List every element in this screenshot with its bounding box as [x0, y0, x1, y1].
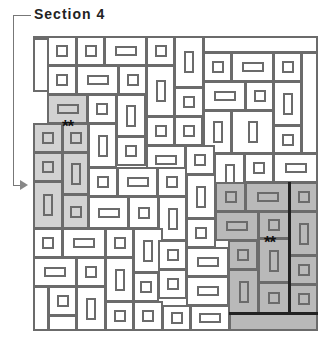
square-slot [155, 125, 167, 137]
grid-cell [146, 116, 175, 146]
grid-cell [203, 81, 246, 111]
tall-slot [239, 281, 249, 303]
square-slot [85, 45, 97, 57]
wide-slot [44, 267, 66, 277]
square-slot [42, 237, 54, 249]
square-slot [125, 145, 137, 157]
grid-cell [88, 167, 118, 197]
grid-cell [186, 247, 229, 277]
grid-cell [174, 36, 204, 88]
grid-cell [289, 211, 318, 256]
grid-cell [231, 52, 274, 82]
grid-cell [174, 87, 204, 117]
tall-slot [43, 194, 53, 216]
square-slot [114, 310, 126, 322]
square-slot [268, 219, 280, 231]
square-slot [171, 312, 183, 324]
grid-cell [76, 65, 119, 95]
grid-cell [33, 286, 49, 331]
grid-cell [273, 52, 302, 82]
grid-cell [87, 94, 117, 124]
grid-cell [174, 116, 203, 146]
thick-divider [229, 312, 318, 315]
grid-cell [229, 313, 318, 331]
square-slot [85, 266, 97, 278]
wide-slot [57, 104, 79, 114]
grid-cell [215, 211, 259, 241]
grid-cell [33, 181, 63, 229]
square-slot [70, 206, 82, 218]
square-slot [195, 227, 207, 239]
square-slot [282, 134, 294, 146]
wide-slot [257, 192, 279, 202]
grid-cell [231, 110, 274, 154]
grid-cell [245, 182, 290, 212]
tall-slot [269, 250, 279, 272]
grid-cell [105, 301, 134, 331]
square-slot [96, 103, 108, 115]
grid-cell [104, 36, 147, 66]
square-slot [254, 90, 266, 102]
square-slot [166, 176, 178, 188]
grid-cell [273, 153, 318, 183]
grid-cell [47, 36, 77, 66]
square-slot [183, 96, 195, 108]
leader-line-top [13, 15, 31, 16]
arrow-right-icon [20, 180, 28, 190]
tall-slot [126, 105, 136, 127]
grid-cell [118, 65, 147, 95]
wide-slot [155, 155, 177, 165]
grid-cell [33, 257, 77, 287]
square-slot [42, 132, 54, 144]
grid-cell [273, 125, 302, 154]
wide-slot [226, 221, 248, 231]
grid-cell [116, 94, 146, 137]
wide-slot [73, 238, 95, 248]
wide-slot [242, 62, 264, 72]
grid-cell [76, 286, 106, 331]
grid-cell [117, 167, 158, 197]
grid-cell [88, 196, 129, 229]
grid-cell [48, 286, 77, 316]
square-slot [127, 74, 139, 86]
grid-cell [289, 284, 318, 314]
thick-divider [288, 182, 291, 314]
square-slot [114, 237, 126, 249]
wide-slot [115, 46, 137, 56]
grid-cell [157, 167, 187, 197]
grid-cell [47, 65, 77, 95]
grid-cell [301, 52, 318, 154]
grid-cell [33, 123, 63, 153]
square-slot [140, 281, 152, 293]
grid-cell [190, 305, 230, 331]
tall-slot [156, 80, 166, 102]
square-slot [253, 162, 265, 174]
square-slot [298, 264, 310, 276]
square-slot [56, 74, 68, 86]
grid-cell [105, 228, 134, 258]
grid-cell [146, 65, 175, 117]
tall-slot [71, 163, 81, 185]
tall-slot [213, 121, 223, 143]
grid-cell [133, 272, 159, 302]
grid-cell [62, 152, 89, 195]
grid-cell [186, 218, 216, 248]
grid-cell [146, 36, 175, 66]
wide-slot [285, 163, 307, 173]
tall-slot [248, 121, 258, 143]
square-slot [97, 176, 109, 188]
square-slot [167, 249, 179, 261]
square-slot [138, 207, 150, 219]
wide-slot [127, 177, 149, 187]
square-slot [298, 191, 310, 203]
grid-cell [116, 136, 146, 166]
section-title: Section 4 [34, 6, 105, 22]
leader-line-vertical [13, 15, 14, 185]
wide-slot [87, 75, 109, 85]
grid-cell [258, 282, 290, 314]
square-slot [194, 154, 206, 166]
square-slot [183, 125, 195, 137]
wide-slot [197, 257, 219, 267]
grid-cell [133, 301, 163, 331]
square-slot [155, 45, 167, 57]
